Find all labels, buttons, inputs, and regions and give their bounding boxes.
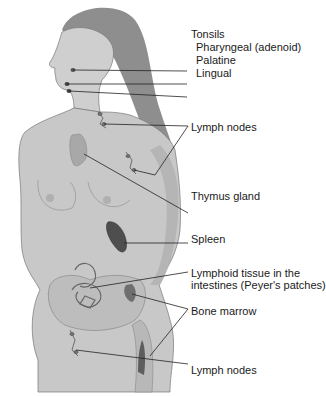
- thymus-gland: [70, 134, 87, 166]
- label-spleen: Spleen: [191, 233, 225, 245]
- label-lingual-tonsil: Lingual: [196, 67, 231, 79]
- label-bone-marrow: Bone marrow: [191, 305, 256, 317]
- label-lymph-nodes-lower: Lymph nodes: [191, 364, 257, 376]
- pelvis: [48, 275, 145, 330]
- label-tonsils: Tonsils: [191, 28, 225, 40]
- label-palatine-tonsil: Palatine: [196, 54, 236, 66]
- label-thymus-gland: Thymus gland: [191, 190, 260, 202]
- label-peyers-line2: intestines (Peyer's patches): [191, 279, 326, 291]
- label-lymph-nodes-upper: Lymph nodes: [191, 121, 257, 133]
- label-pharyngeal-tonsil: Pharyngeal (adenoid): [196, 41, 301, 53]
- label-peyers-line1: Lymphoid tissue in the: [191, 267, 300, 279]
